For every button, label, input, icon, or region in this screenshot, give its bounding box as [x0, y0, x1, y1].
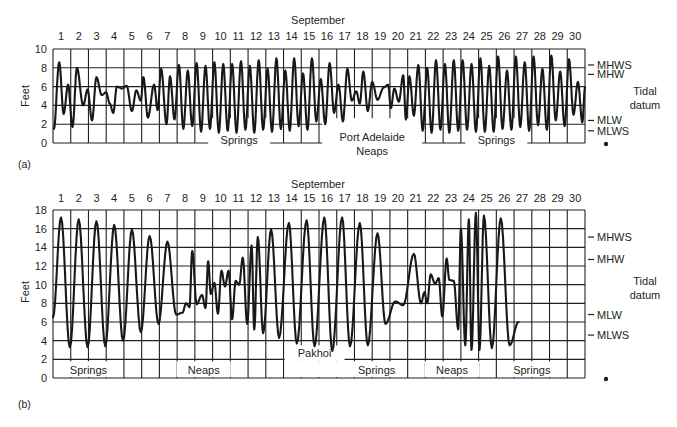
day-label: 8 — [182, 30, 188, 42]
day-label: 8 — [182, 192, 188, 204]
datum-zero-dot — [604, 142, 608, 146]
y-tick-label: 8 — [41, 62, 47, 74]
band-label: Neaps — [188, 364, 220, 376]
day-label: 15 — [303, 192, 315, 204]
y-tick-label: 0 — [41, 137, 47, 149]
datum-zero-dot — [604, 377, 608, 381]
y-tick-label: 8 — [41, 297, 47, 309]
chart-b-title: September — [291, 178, 345, 190]
chart-b-ylabel: Feet — [19, 281, 31, 303]
band-label: Springs — [478, 134, 516, 146]
day-label: 13 — [268, 30, 280, 42]
figure-tidal-curves: September Feet 0246810 12345678910111213… — [0, 0, 677, 427]
day-label: 17 — [339, 192, 351, 204]
y-tick-label: 0 — [41, 372, 47, 384]
day-label: 6 — [147, 192, 153, 204]
panel-a-label: (a) — [18, 158, 31, 170]
day-label: 11 — [233, 192, 244, 204]
day-label: 27 — [516, 192, 528, 204]
day-label: 22 — [427, 192, 439, 204]
band-label: Springs — [358, 364, 396, 376]
band-label: Pakhoi — [298, 347, 332, 359]
day-label: 30 — [569, 30, 581, 42]
day-label: 12 — [250, 192, 262, 204]
datum-label-mlws: MLWS — [597, 329, 629, 341]
day-label: 15 — [303, 30, 315, 42]
datum-label-mhw: MHW — [597, 253, 625, 265]
chart-b-y-axis: 024681012141618 — [35, 204, 47, 384]
band-label-2: Neaps — [356, 145, 388, 157]
panel-b-label: (b) — [18, 398, 31, 410]
datum-title-line1: Tidal — [633, 275, 656, 287]
y-tick-label: 2 — [41, 118, 47, 130]
day-label: 28 — [534, 192, 546, 204]
chart-a-datum-axis: MHWSMHWMLWMLWSTidaldatum — [588, 59, 660, 146]
chart-b-x-axis: 1234567891011121314151617181920212223242… — [58, 192, 581, 204]
band-label: Springs — [221, 134, 259, 146]
band-label: Neaps — [436, 364, 468, 376]
day-label: 17 — [339, 30, 351, 42]
datum-label-mlw: MLW — [597, 309, 622, 321]
day-label: 18 — [356, 30, 368, 42]
day-label: 4 — [111, 30, 117, 42]
day-label: 6 — [147, 30, 153, 42]
datum-title-line2: datum — [630, 289, 661, 301]
y-tick-label: 10 — [35, 279, 47, 291]
day-label: 26 — [498, 30, 510, 42]
day-label: 19 — [374, 30, 386, 42]
chart-b-pakhoi: September Feet 024681012141618 123456789… — [18, 178, 660, 410]
day-label: 23 — [445, 192, 457, 204]
day-label: 23 — [445, 30, 457, 42]
day-label: 14 — [285, 192, 297, 204]
day-label: 5 — [129, 30, 135, 42]
day-label: 29 — [551, 192, 563, 204]
day-label: 7 — [164, 30, 170, 42]
day-label: 1 — [58, 192, 64, 204]
datum-label-mhws: MHWS — [597, 231, 632, 243]
y-tick-label: 4 — [41, 99, 47, 111]
day-label: 2 — [76, 30, 82, 42]
day-label: 3 — [93, 192, 99, 204]
y-tick-label: 6 — [41, 81, 47, 93]
day-label: 22 — [427, 30, 439, 42]
day-label: 27 — [516, 30, 528, 42]
day-label: 24 — [463, 30, 475, 42]
y-tick-label: 6 — [41, 316, 47, 328]
day-label: 1 — [58, 30, 64, 42]
y-tick-label: 12 — [35, 260, 47, 272]
day-label: 26 — [498, 192, 510, 204]
day-label: 16 — [321, 192, 333, 204]
band-mask — [288, 361, 342, 377]
day-label: 10 — [214, 30, 226, 42]
chart-b-datum-axis: MHWSMHWMLWMLWSTidaldatum — [588, 231, 660, 381]
day-label: 24 — [463, 192, 475, 204]
day-label: 20 — [392, 192, 404, 204]
chart-a-title: September — [291, 14, 345, 26]
chart-a-port-adelaide: September Feet 0246810 12345678910111213… — [18, 14, 660, 170]
y-tick-label: 14 — [35, 241, 47, 253]
day-label: 21 — [410, 192, 422, 204]
day-label: 25 — [480, 192, 492, 204]
band-label: Springs — [513, 364, 551, 376]
day-label: 18 — [356, 192, 368, 204]
day-label: 4 — [111, 192, 117, 204]
day-label: 20 — [392, 30, 404, 42]
y-tick-label: 16 — [35, 223, 47, 235]
datum-label-mhw: MHW — [597, 68, 625, 80]
day-label: 19 — [374, 192, 386, 204]
day-label: 21 — [410, 30, 422, 42]
day-label: 13 — [268, 192, 280, 204]
day-label: 3 — [93, 30, 99, 42]
y-tick-label: 2 — [41, 353, 47, 365]
chart-b-spring-neap-bands: SpringsNeapsPakhoiSpringsNeapsSprings — [59, 345, 561, 377]
day-label: 2 — [76, 192, 82, 204]
datum-label-mlws: MLWS — [597, 125, 629, 137]
band-label: Springs — [70, 364, 108, 376]
day-label: 5 — [129, 192, 135, 204]
y-tick-label: 10 — [35, 43, 47, 55]
chart-b-tide-curve — [53, 213, 519, 351]
day-label: 10 — [214, 192, 226, 204]
datum-title-line1: Tidal — [633, 85, 656, 97]
day-label: 28 — [534, 30, 546, 42]
day-label: 16 — [321, 30, 333, 42]
